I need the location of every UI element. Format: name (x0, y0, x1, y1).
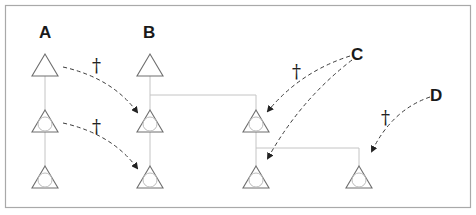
lineage-diagram: A B C D † † † † (0, 0, 476, 215)
dagger-icon: † (381, 107, 390, 128)
label-d: D (430, 86, 442, 105)
label-c: C (351, 45, 363, 64)
label-a: A (39, 23, 51, 42)
dagger-icon: † (292, 61, 301, 82)
dagger-icon: † (92, 55, 101, 76)
label-b: B (143, 23, 155, 42)
diagram-frame (6, 6, 471, 208)
dagger-icon: † (92, 116, 101, 137)
